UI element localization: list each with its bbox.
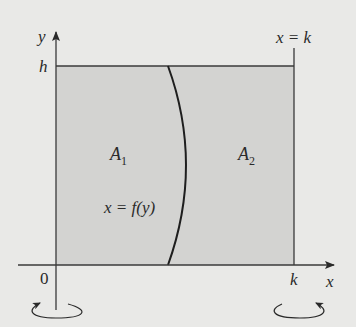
x-equals-k-label: x = k <box>275 28 312 47</box>
k-tick-label: k <box>290 270 298 289</box>
area-rotation-diagram: y h x = k 0 k x A1 A2 x = f(y) <box>0 0 356 327</box>
shaded-region <box>56 66 294 265</box>
origin-label: 0 <box>40 269 49 288</box>
x-axis-label: x <box>325 272 334 291</box>
y-axis-label: y <box>36 27 46 46</box>
curve-label: x = f(y) <box>103 198 155 217</box>
h-label: h <box>39 57 48 76</box>
rotation-arrow-x-k-icon <box>274 303 324 318</box>
rotation-arrow-y-axis-icon <box>32 303 82 318</box>
